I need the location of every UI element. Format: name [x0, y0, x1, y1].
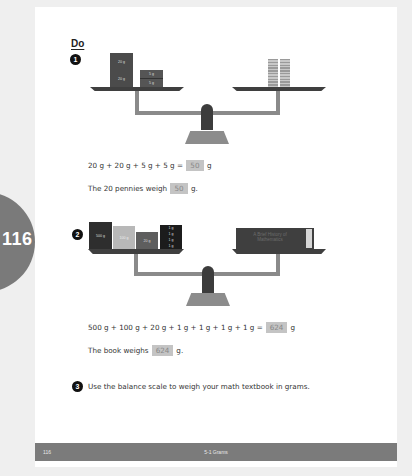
sentence-2-text: The book weighs [88, 346, 149, 355]
unit: g [290, 323, 295, 332]
sentence-2: The book weighs 624 g. [88, 345, 183, 356]
equation-1: 20 g + 20 g + 5 g + 5 g = 50 g [88, 160, 211, 171]
step-number-1: 1 [70, 54, 81, 65]
answer-box: 50 [170, 183, 188, 194]
instruction-3: Use the balance scale to weigh your math… [88, 382, 310, 391]
footer-title: 5-1 Grams [35, 449, 397, 455]
equation-2: 500 g + 100 g + 20 g + 1 g + 1 g + 1 g +… [88, 322, 295, 333]
step-number-2: 2 [72, 229, 83, 240]
unit: g [207, 161, 212, 170]
weight-5g-bottom: 5 g [140, 79, 163, 87]
equation-2-text: 500 g + 100 g + 20 g + 1 g + 1 g + 1 g +… [88, 323, 263, 332]
page-footer: 116 5-1 Grams [35, 443, 397, 461]
page-tab-number: 116 [2, 229, 33, 250]
book: A Brief History of Mathematics [236, 228, 314, 249]
equation-1-text: 20 g + 20 g + 5 g + 5 g = [88, 161, 183, 170]
scale-base [186, 293, 230, 306]
weight-500g: 500 g [89, 222, 112, 249]
weight-20g-bottom: 20 g [110, 70, 133, 87]
answer-box: 624 [152, 345, 174, 356]
sentence-1-suffix: g. [191, 184, 198, 193]
scale-post [202, 266, 214, 293]
answer-box: 624 [266, 322, 288, 333]
weight-5g-top: 5 g [140, 70, 163, 79]
sentence-2-suffix: g. [176, 346, 183, 355]
sentence-1-text: The 20 pennies weigh [88, 184, 167, 193]
section-heading: Do [71, 38, 84, 49]
weight-100g: 100 g [113, 226, 135, 249]
scale-base [185, 131, 229, 144]
book-title: A Brief History of Mathematics [240, 232, 300, 242]
penny-stack-right [280, 59, 290, 87]
scale-post [201, 104, 213, 130]
book-pages [306, 229, 312, 248]
weight-20g-top: 20 g [110, 53, 133, 71]
sentence-1: The 20 pennies weigh 50 g. [88, 183, 198, 194]
weight-1g: 1 g [160, 243, 182, 249]
penny-stack-left [268, 59, 278, 87]
right-arm-vertical [276, 91, 280, 115]
right-arm-vertical [276, 254, 280, 276]
step-number-3: 3 [72, 381, 83, 392]
weight-20g: 20 g [136, 232, 158, 249]
answer-box: 50 [186, 160, 204, 171]
